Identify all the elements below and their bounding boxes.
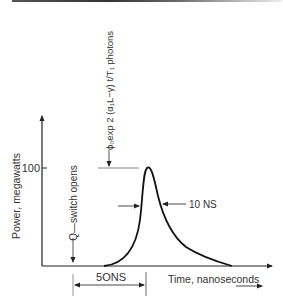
pulse-curve: [104, 167, 232, 266]
delay-label: 5ONS: [96, 271, 126, 283]
y-tick-label: 100: [22, 162, 40, 174]
x-axis-label: Time, nanoseconds: [168, 273, 259, 285]
q-switch-pulse-diagram: 100 Power, megawatts Q—switch opens ϕ₀ex…: [0, 0, 283, 301]
photon-annotation: ϕ₀exp 2 (α₁L−γ) t/T₁ photons: [104, 31, 115, 150]
y-axis-label: Power, megawatts: [10, 153, 22, 239]
q-switch-label: Q—switch opens: [68, 165, 79, 241]
pulse-width-label: 10 NS: [189, 199, 217, 210]
